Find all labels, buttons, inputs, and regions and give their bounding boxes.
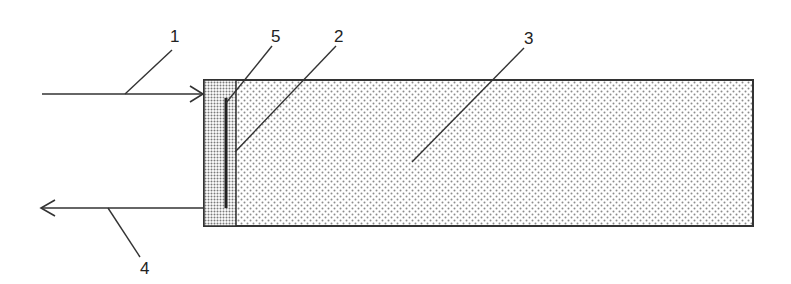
output-arrow <box>41 200 204 216</box>
label-5: 5 <box>271 27 280 46</box>
diagram-canvas: 1 5 2 3 4 <box>0 0 791 284</box>
leader-line-1 <box>125 50 172 94</box>
label-1: 1 <box>170 27 179 46</box>
label-4: 4 <box>140 259 149 278</box>
input-arrow <box>42 86 203 102</box>
label-3: 3 <box>524 29 533 48</box>
label-2: 2 <box>334 27 343 46</box>
dense-layer <box>204 80 236 226</box>
leader-line-4 <box>108 208 140 257</box>
main-body <box>204 80 753 226</box>
